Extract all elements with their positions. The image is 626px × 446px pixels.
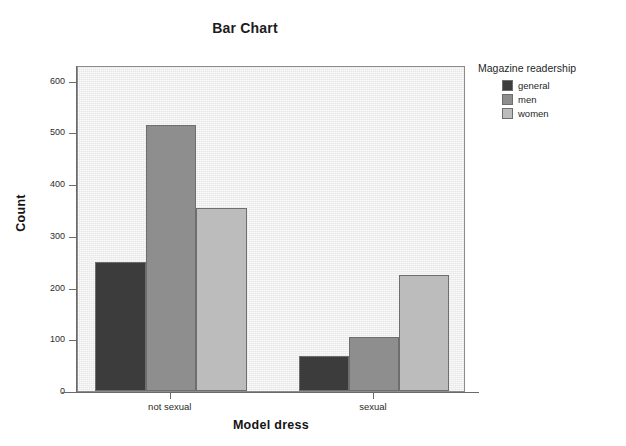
y-tick-label: 300 [28,231,65,241]
legend-item-general: general [502,79,624,92]
y-tick-label: 500 [28,127,65,137]
legend: Magazine readership generalmenwomen [478,62,624,121]
y-tick-label: 100 [28,334,65,344]
x-tick-label: not sexual [110,401,230,412]
bar-sexual-general [299,356,349,391]
y-tick-label: 400 [28,179,65,189]
y-tick-label: 200 [28,283,65,293]
legend-label-women: women [518,108,549,119]
chart-title: Bar Chart [0,20,490,36]
legend-swatch-general [502,80,513,91]
x-axis-title: Model dress [77,418,465,432]
y-tick-mark [69,340,77,341]
bar-not-sexual-general [95,262,146,391]
legend-item-women: women [502,107,624,120]
legend-items: generalmenwomen [502,79,624,120]
legend-swatch-men [502,94,513,105]
y-tick-mark [69,237,77,238]
legend-swatch-women [502,108,513,119]
x-tick-mark [170,392,171,399]
y-tick-label: 600 [28,76,65,86]
x-tick-label: sexual [313,401,433,412]
y-tick-mark [69,289,77,290]
legend-item-men: men [502,93,624,106]
x-axis-line [62,392,479,393]
y-tick-mark [69,185,77,186]
y-tick-mark [69,133,77,134]
legend-title: Magazine readership [478,62,624,74]
legend-label-men: men [518,94,536,105]
bar-sexual-women [399,275,449,391]
x-tick-mark [373,392,374,399]
bar-not-sexual-men [146,125,197,391]
bar-sexual-men [349,337,399,391]
y-tick-label: 0 [28,386,65,396]
y-tick-mark [69,82,77,83]
plot-area [77,66,465,392]
legend-label-general: general [518,80,550,91]
bar-not-sexual-women [196,208,247,391]
y-axis-title: Count [14,173,28,253]
